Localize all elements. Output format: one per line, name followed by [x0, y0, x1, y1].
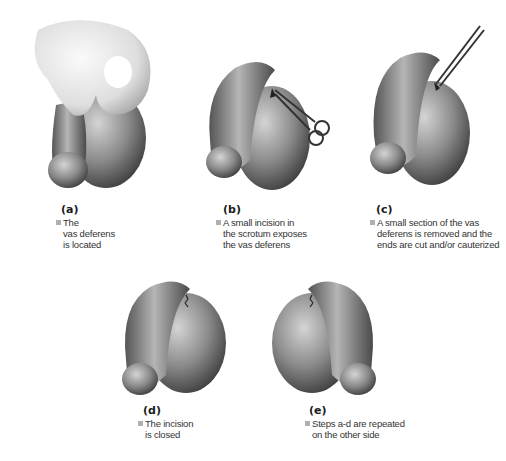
illustration-other-side	[260, 275, 380, 400]
bullet-icon	[56, 220, 61, 225]
illustration-incision	[200, 50, 345, 200]
panel-label-d: (d)	[143, 404, 161, 417]
bullet-icon	[305, 421, 310, 426]
panel-caption-d: The incision is closed	[138, 418, 193, 440]
illustration-section-removed	[370, 18, 500, 198]
illustration-vas-located	[18, 10, 168, 195]
bullet-icon	[370, 220, 375, 225]
panel-label-a: (a)	[61, 203, 78, 216]
panel-caption-b: A small incision in the scrotum exposes …	[216, 217, 307, 250]
illustration-incision-closed	[118, 275, 238, 400]
panel-caption-c: A small section of the vas deferens is r…	[370, 217, 499, 250]
panel-label-c: (c)	[376, 203, 393, 216]
panel-caption-a: The vas deferens is located	[56, 217, 115, 250]
bullet-icon	[138, 421, 143, 426]
panel-label-b: (b)	[223, 203, 241, 216]
bullet-icon	[216, 220, 221, 225]
panel-label-e: (e)	[309, 404, 327, 417]
panel-caption-e: Steps a-d are repeated on the other side	[305, 418, 405, 440]
